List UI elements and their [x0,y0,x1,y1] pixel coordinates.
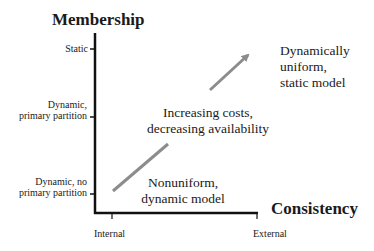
y-tick-dynamic-no-primary-partition: Dynamic, no primary partition [19,176,87,198]
y-tick-dynamic-primary-partition: Dynamic, primary partition [19,99,87,121]
x-tick-external: External [253,228,287,239]
region-top-right: Dynamically uniform, static model [280,43,350,91]
x-ticks [112,214,257,219]
region-bottom: Nonuniform, dynamic model [133,175,233,207]
y-ticks [90,49,94,194]
y-tick-static: Static [65,43,88,54]
y-axis-title: Membership [52,10,145,30]
x-axis-title: Consistency [271,199,358,219]
x-tick-internal: Internal [94,228,125,239]
region-middle: Increasing costs, decreasing availabilit… [138,105,278,137]
